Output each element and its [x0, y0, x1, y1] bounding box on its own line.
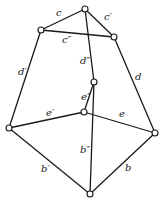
edge-11: [90, 133, 155, 194]
edge-2: [41, 30, 114, 37]
edge-label: b′: [41, 163, 50, 174]
edge-label: d′: [18, 66, 27, 77]
node-inner-lower: [81, 109, 87, 115]
edge-3: [9, 30, 41, 128]
diagram-canvas: cc′c″d′dd″e″e′eb″b′b: [0, 0, 166, 203]
node-upper-right: [111, 34, 117, 40]
node-bottom: [87, 191, 93, 197]
node-mid-right: [152, 130, 158, 136]
edge-label: b″: [80, 144, 90, 155]
edge-label: e: [119, 108, 125, 119]
edge-label: b: [125, 162, 131, 173]
edge-label: e″: [81, 91, 91, 102]
edge-label: d: [135, 71, 141, 82]
node-apex: [82, 6, 88, 12]
edge-label: c′: [104, 11, 113, 22]
node-inner-upper: [91, 79, 97, 85]
edge-5: [85, 9, 94, 82]
node-mid-left: [6, 125, 12, 131]
edge-0: [41, 9, 85, 30]
edge-label: d″: [80, 55, 90, 66]
edge-label: c″: [62, 34, 72, 45]
node-upper-left: [38, 27, 44, 33]
edge-label: c: [56, 7, 62, 18]
edge-label: e′: [46, 107, 55, 118]
graph-svg: cc′c″d′dd″e″e′eb″b′b: [0, 0, 166, 203]
edge-10: [9, 128, 90, 194]
